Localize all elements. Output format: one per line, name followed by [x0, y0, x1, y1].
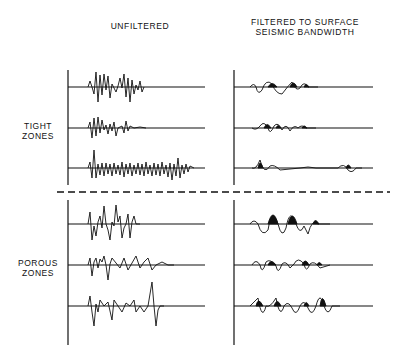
trace-unfiltered-porous-1	[88, 205, 140, 240]
trace-filtered-tight-3	[252, 160, 362, 172]
trace-filtered-tight-1	[250, 82, 318, 94]
trace-unfiltered-porous-2	[88, 256, 174, 280]
trace-unfiltered-porous-3	[88, 282, 164, 326]
trace-filtered-porous-3	[250, 298, 340, 313]
seismic-traces-diagram	[0, 0, 403, 363]
trace-unfiltered-tight-3	[88, 150, 194, 180]
